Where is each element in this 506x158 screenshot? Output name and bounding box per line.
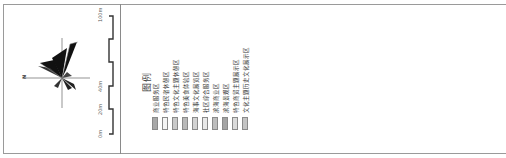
scale-tick-40m: 40m (97, 81, 103, 92)
scale-tick-100m: 100m (97, 8, 103, 22)
legend-item-label: 特色文化主题休憩区 (172, 59, 180, 113)
scale-tick-0m: 0m (97, 130, 103, 138)
legend-swatch (182, 117, 188, 130)
legend-swatch (222, 117, 228, 130)
legend-item-label: 特色民宿休憩区 (162, 71, 170, 113)
legend-swatch (202, 117, 208, 130)
legend-swatch (242, 117, 248, 130)
legend-swatch (162, 117, 168, 130)
legend-swatch (212, 117, 218, 130)
legend-item-label: 海事文化展览区 (192, 71, 200, 113)
scale-bar: 100m 40m 20m 0m (95, 14, 115, 139)
legend-item-label: 社区综合服务区 (202, 71, 210, 113)
legend-item-label: 滨海景观区 (222, 83, 230, 113)
north-label: N (21, 75, 27, 79)
panel-divider (120, 4, 121, 154)
legend-item-label: 滨海商业区 (212, 83, 220, 113)
legend-item-label: 商业服务区 (152, 83, 160, 113)
wind-rose: N (22, 30, 92, 110)
legend-swatch (172, 117, 178, 130)
scale-tick-20m: 20m (97, 104, 103, 115)
legend-item-label: 特色商贸主题展示区 (232, 59, 240, 113)
legend-swatch (152, 117, 158, 130)
legend-swatch (232, 117, 238, 130)
legend-swatch (192, 117, 198, 130)
legend-item-label: 文化主题历史文化展示区 (242, 47, 250, 113)
legend-item-label: 特色美食体验区 (182, 71, 190, 113)
